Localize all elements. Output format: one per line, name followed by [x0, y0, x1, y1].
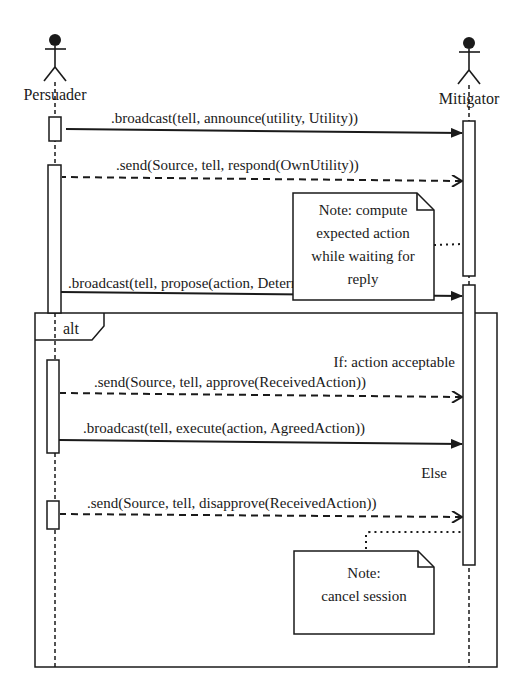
message-label: .send(Source, tell, approve(ReceivedActi… — [94, 374, 366, 391]
message-execute: .broadcast(tell, execute(action, AgreedA… — [59, 420, 462, 444]
activation-persuader-1 — [49, 117, 61, 141]
note-line: Note: — [347, 565, 380, 581]
message-disapprove: .send(Source, tell, disapprove(ReceivedA… — [60, 495, 462, 517]
message-label: .send(Source, tell, respond(OwnUtility)) — [116, 157, 359, 174]
note-line: while waiting for — [311, 248, 414, 264]
note-cancel-session: Note: cancel session — [294, 532, 462, 634]
message-announce: .broadcast(tell, announce(utility, Utili… — [66, 110, 462, 133]
note-connector — [366, 532, 462, 549]
note-line: Note: compute — [319, 202, 408, 218]
message-label: .send(Source, tell, disapprove(ReceivedA… — [87, 495, 376, 512]
guard-if-action-acceptable: If: action acceptable — [333, 354, 455, 370]
note-line: reply — [348, 271, 379, 287]
sequence-diagram: Persuader Mitigator alt If: action accep… — [0, 0, 524, 690]
activation-persuader-2 — [48, 165, 61, 313]
message-label: .broadcast(tell, announce(utility, Utili… — [111, 110, 358, 127]
activation-persuader-3 — [47, 360, 59, 453]
activation-persuader-4 — [47, 501, 59, 529]
alt-operator-label: alt — [63, 320, 80, 337]
note-line: cancel session — [321, 588, 407, 604]
note-connector — [434, 244, 463, 245]
activation-mitigator-2 — [463, 285, 475, 565]
activation-mitigator-1 — [463, 121, 475, 276]
message-approve: .send(Source, tell, approve(ReceivedActi… — [60, 374, 462, 397]
message-label: .broadcast(tell, execute(action, AgreedA… — [83, 420, 365, 437]
note-compute-expected-action: Note: compute expected action while wait… — [293, 193, 463, 300]
message-respond: .send(Source, tell, respond(OwnUtility)) — [62, 157, 462, 181]
note-line: expected action — [316, 225, 410, 241]
actor-mitigator: Mitigator — [439, 37, 500, 108]
lifeline-label-persuader: Persuader — [23, 86, 87, 103]
guard-else: Else — [421, 465, 447, 481]
actor-stick-figure-icon — [458, 37, 480, 84]
actor-stick-figure-icon — [44, 34, 66, 81]
